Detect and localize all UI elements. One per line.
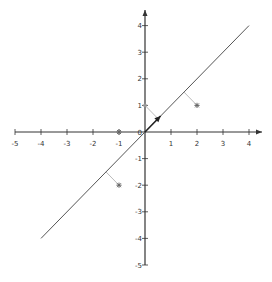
y-tick-label: -2	[135, 182, 142, 190]
y-tick-label: 2	[138, 75, 142, 83]
projection-line	[106, 172, 119, 185]
star-marker-icon	[116, 183, 121, 188]
y-axis-arrow-icon	[143, 10, 148, 16]
y-tick-label: -4	[135, 235, 143, 243]
y-tick-label: 1	[138, 102, 142, 110]
x-tick-label: 1	[169, 140, 173, 148]
unit-vector-arrow	[145, 116, 161, 132]
projection-line	[184, 92, 197, 105]
y-tick-label: -1	[135, 155, 142, 163]
star-marker-icon	[194, 103, 199, 108]
projection-lines	[106, 92, 197, 185]
data-points	[116, 103, 199, 188]
y-tick-label: -5	[135, 262, 142, 270]
dot-marker-icon	[143, 104, 147, 108]
y-tick-label: 3	[138, 49, 142, 57]
x-tick-label: -2	[90, 140, 97, 148]
x-tick-label: 2	[195, 140, 199, 148]
x-tick-label: -4	[38, 140, 46, 148]
chart-plot: -5-4-3-2-11234 -5-4-3-2-101234	[0, 0, 272, 282]
x-tick-label: -5	[12, 140, 19, 148]
x-tick-label: 3	[221, 140, 225, 148]
star-marker-icon	[116, 129, 121, 134]
x-tick-label: 4	[247, 140, 252, 148]
projection-line	[145, 105, 158, 118]
x-tick-label: -3	[64, 140, 71, 148]
y-tick-label: -3	[135, 208, 142, 216]
y-tick-label: 4	[138, 22, 143, 30]
x-tick-label: -1	[116, 140, 123, 148]
x-axis-arrow-icon	[256, 130, 262, 135]
y-ticks: -5-4-3-2-101234	[135, 22, 148, 269]
